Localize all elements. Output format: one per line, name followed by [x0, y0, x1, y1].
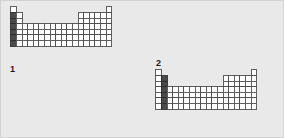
element-cell — [22, 35, 28, 41]
element-cell — [156, 103, 162, 109]
element-cell — [184, 98, 190, 104]
highlighted-element-cell — [11, 35, 17, 41]
element-cell — [195, 103, 201, 109]
element-cell — [195, 98, 201, 104]
element-cell — [251, 103, 257, 109]
element-cell — [189, 103, 195, 109]
element-cell — [56, 35, 62, 41]
element-cell — [106, 29, 112, 35]
element-cell — [206, 103, 212, 109]
element-cell — [84, 24, 90, 30]
element-cell — [156, 87, 162, 93]
element-cell — [167, 103, 173, 109]
element-cell — [212, 98, 218, 104]
element-cell — [89, 24, 95, 30]
figure-canvas: 1 2 — [0, 0, 284, 138]
highlighted-element-cell — [11, 24, 17, 30]
element-cell — [100, 40, 106, 46]
element-cell — [33, 24, 39, 30]
element-cell — [72, 35, 78, 41]
element-cell — [50, 24, 56, 30]
element-cell — [234, 92, 240, 98]
periodic-table-grid — [10, 6, 113, 47]
element-cell — [100, 29, 106, 35]
element-cell — [50, 35, 56, 41]
element-cell — [95, 35, 101, 41]
element-cell — [178, 98, 184, 104]
figure-label-2: 2 — [156, 59, 161, 68]
element-cell — [229, 81, 235, 87]
element-cell — [245, 92, 251, 98]
element-cell — [84, 29, 90, 35]
element-cell — [240, 81, 246, 87]
element-cell — [33, 35, 39, 41]
element-cell — [95, 24, 101, 30]
element-cell — [201, 103, 207, 109]
element-cell — [251, 98, 257, 104]
element-cell — [189, 87, 195, 93]
element-cell — [33, 40, 39, 46]
element-cell — [100, 13, 106, 19]
element-cell — [206, 87, 212, 93]
element-cell — [84, 35, 90, 41]
highlighted-element-cell — [161, 76, 167, 82]
element-cell — [206, 98, 212, 104]
element-cell — [212, 92, 218, 98]
element-cell — [39, 40, 45, 46]
element-cell — [178, 87, 184, 93]
element-cell — [56, 29, 62, 35]
element-cell — [167, 87, 173, 93]
element-cell — [72, 24, 78, 30]
element-cell — [229, 98, 235, 104]
element-cell — [178, 92, 184, 98]
element-cell — [16, 24, 22, 30]
element-cell — [61, 40, 67, 46]
element-cell — [156, 92, 162, 98]
element-cell — [39, 35, 45, 41]
element-cell — [22, 29, 28, 35]
element-cell — [28, 29, 34, 35]
element-cell — [212, 103, 218, 109]
element-cell — [206, 92, 212, 98]
element-cell — [33, 29, 39, 35]
element-cell — [106, 40, 112, 46]
element-cell — [67, 40, 73, 46]
element-cell — [234, 98, 240, 104]
element-cell — [72, 40, 78, 46]
element-cell — [184, 92, 190, 98]
element-cell — [16, 29, 22, 35]
element-cell — [106, 18, 112, 24]
element-cell — [195, 92, 201, 98]
element-cell — [106, 24, 112, 30]
element-cell — [223, 92, 229, 98]
element-cell — [245, 76, 251, 82]
figure-label-1: 1 — [10, 65, 15, 74]
element-cell — [156, 70, 162, 76]
element-cell — [16, 18, 22, 24]
element-cell — [240, 103, 246, 109]
element-cell — [28, 24, 34, 30]
element-cell — [89, 29, 95, 35]
element-cell — [28, 40, 34, 46]
element-cell — [100, 35, 106, 41]
element-cell — [234, 76, 240, 82]
element-cell — [223, 81, 229, 87]
element-cell — [251, 70, 257, 76]
element-cell — [234, 81, 240, 87]
element-cell — [240, 87, 246, 93]
element-cell — [44, 29, 50, 35]
highlighted-element-cell — [11, 13, 17, 19]
element-cell — [223, 76, 229, 82]
element-cell — [95, 29, 101, 35]
element-cell — [156, 98, 162, 104]
element-cell — [212, 87, 218, 93]
highlighted-element-cell — [161, 103, 167, 109]
element-cell — [16, 40, 22, 46]
element-cell — [217, 98, 223, 104]
element-cell — [156, 81, 162, 87]
element-cell — [251, 76, 257, 82]
element-cell — [223, 98, 229, 104]
element-cell — [240, 76, 246, 82]
element-cell — [72, 29, 78, 35]
element-cell — [189, 92, 195, 98]
